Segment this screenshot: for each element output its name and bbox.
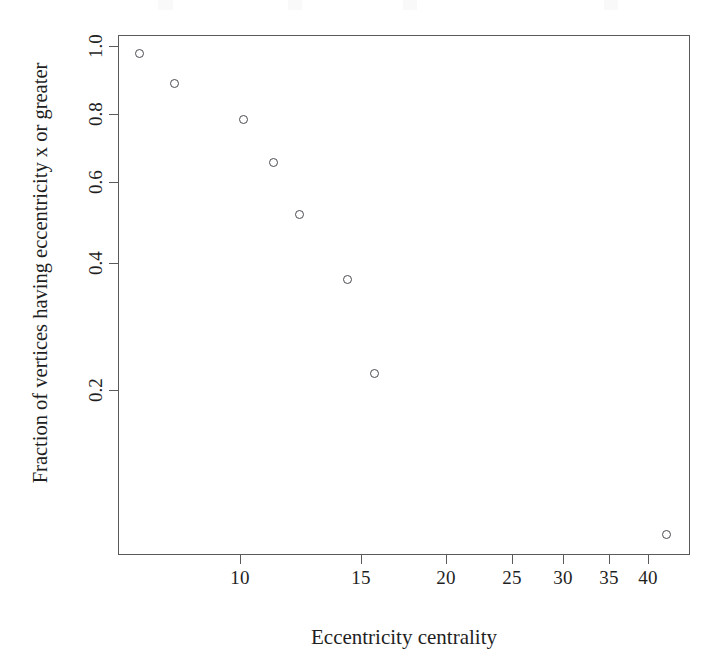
data-point [295,210,304,219]
x-tick-mark [563,555,564,564]
y-axis-ticks [118,35,119,555]
data-point [370,369,379,378]
x-tick-label: 30 [553,567,572,589]
data-points-layer [119,36,689,554]
y-tick-label: 0.8 [85,102,107,126]
data-point [135,49,144,58]
scan-artifact [0,0,719,10]
y-tick-label: 0.2 [85,378,107,402]
y-tick-label: 0.4 [85,251,107,275]
x-tick-mark [512,555,513,564]
x-tick-mark [361,555,362,564]
x-tick-label: 35 [599,567,618,589]
scatter-plot-figure: 0.20.40.60.81.0 10152025303540 Eccentric… [0,0,719,669]
data-point [170,79,179,88]
y-tick-mark [109,390,118,391]
y-axis-title-wrapper: Fraction of vertices having eccentricity… [29,13,59,533]
y-tick-label: 0.6 [85,170,107,194]
plot-area [118,35,690,555]
x-axis-title: Eccentricity centrality [118,625,690,650]
data-point [662,530,671,539]
x-tick-label: 20 [436,567,455,589]
y-tick-mark [109,263,118,264]
y-tick-mark [109,182,118,183]
x-axis-ticks: 10152025303540 [118,555,690,565]
x-tick-label: 25 [502,567,521,589]
x-tick-mark [609,555,610,564]
data-point [343,275,352,284]
y-tick-mark [109,114,118,115]
x-tick-mark [240,555,241,564]
x-tick-label: 40 [638,567,657,589]
x-tick-mark [446,555,447,564]
x-tick-mark [648,555,649,564]
y-tick-mark [109,46,118,47]
y-axis-title: Fraction of vertices having eccentricity… [29,13,52,533]
x-tick-label: 15 [351,567,370,589]
y-axis-tick-labels: 0.20.40.60.81.0 [58,35,108,555]
data-point [239,115,248,124]
y-tick-label: 1.0 [85,34,107,58]
data-point [269,158,278,167]
x-tick-label: 10 [230,567,249,589]
